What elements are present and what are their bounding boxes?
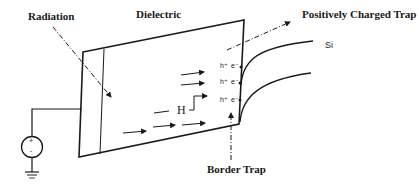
hole-label: h⁺ — [220, 62, 228, 70]
electron-label: e⁻ — [231, 96, 239, 104]
gate-interface-line — [100, 49, 104, 154]
interface-trap-dot — [239, 99, 242, 102]
transport-arrow — [181, 83, 204, 85]
hole-label: h⁺ — [220, 96, 228, 104]
interface-trap-dot — [239, 82, 242, 85]
radiation-label: Radiation — [28, 10, 74, 22]
transport-arrow — [153, 125, 175, 127]
electron-label: e⁻ — [231, 78, 239, 86]
interface-trap-dot — [240, 66, 243, 69]
hole-label: h⁺ — [220, 78, 228, 86]
transport-arrow — [123, 131, 146, 133]
dielectric-diagram — [0, 0, 419, 188]
transport-arrow — [182, 123, 205, 125]
si-upper-band-curve — [241, 41, 313, 85]
hydrogen-label: H — [177, 103, 186, 118]
transport-arrow — [181, 72, 204, 75]
voltage-minus-label: - — [30, 147, 32, 154]
si-lower-band-curve — [240, 73, 311, 122]
dielectric-slab — [79, 20, 244, 157]
dielectric-label: Dielectric — [136, 8, 181, 20]
hydrogen-arrow — [189, 96, 207, 110]
positively-charged-trap-arrow — [227, 22, 290, 50]
silicon-label: Si — [325, 40, 333, 50]
voltage-plus-label: + — [29, 137, 33, 144]
hydrogen-path-line — [154, 111, 169, 113]
electron-label: e⁻ — [231, 62, 239, 70]
gate-wire — [32, 109, 82, 137]
positively-charged-trap-label: Positively Charged Trap — [302, 8, 416, 20]
border-trap-label: Border Trap — [207, 163, 266, 175]
